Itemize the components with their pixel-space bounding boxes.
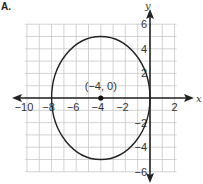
center-point [98,95,103,100]
x-tick-label: −4 [92,101,105,113]
center-point-label: (−4, 0) [85,80,117,92]
coordinate-plane: x y −10−8−6−4−22 642−2−4−6 (−4, 0) [0,0,203,184]
y-tick-label: 6 [141,18,147,30]
y-axis-label: y [144,0,151,11]
x-tick-label: −2 [116,101,129,113]
x-tick-label: 2 [172,101,178,113]
y-tick-label: −6 [134,166,147,178]
x-tick-label: −10 [15,101,34,113]
y-tick-label: 4 [141,43,147,55]
y-tick-label: −4 [134,141,147,153]
x-tick-label: −6 [67,101,80,113]
x-axis-label: x [196,93,202,104]
